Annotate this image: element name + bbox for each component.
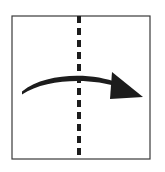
figure-container: Curved arrow crossing a vertical dashed … <box>0 0 165 172</box>
diagram-canvas <box>0 0 165 172</box>
